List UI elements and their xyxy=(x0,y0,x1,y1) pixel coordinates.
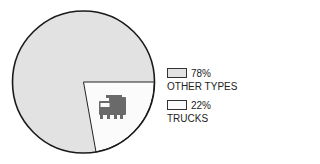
legend-label: OTHER TYPES xyxy=(167,81,237,92)
legend-item-trucks: 22% TRUCKS xyxy=(167,99,211,124)
legend-swatch-trucks xyxy=(167,100,187,110)
pie-slice-trucks xyxy=(84,82,155,152)
legend-swatch-other-types xyxy=(167,68,187,78)
legend-item-other-types: 78% OTHER TYPES xyxy=(167,67,237,92)
legend-percent: 78% xyxy=(191,68,211,79)
legend-label: TRUCKS xyxy=(167,113,211,124)
legend-percent: 22% xyxy=(191,100,211,111)
